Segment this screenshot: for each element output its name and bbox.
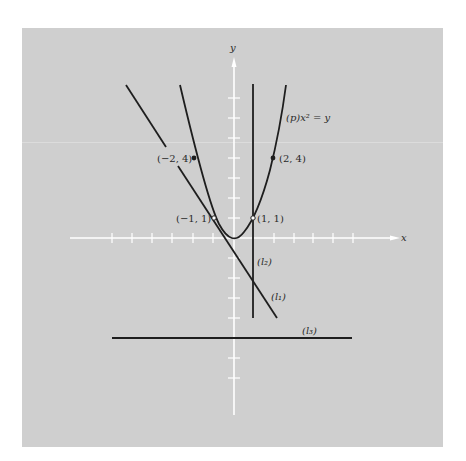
point-neg2-4-marker-icon: [192, 156, 197, 161]
x-axis-label: x: [401, 232, 407, 243]
label-l1: (l₁): [271, 291, 286, 302]
y-axis-arrow-icon: [232, 57, 237, 67]
y-axis-label: y: [229, 42, 236, 53]
point-neg1-1-marker-icon: [212, 216, 216, 220]
point-2-4-marker-icon: [271, 156, 276, 161]
x-axis-arrow-icon: [390, 236, 400, 241]
label-point-neg2-4: (−2, 4): [157, 153, 192, 164]
label-l3: (l₃): [302, 325, 317, 336]
label-point-1-1: (1, 1): [257, 213, 284, 224]
label-point-neg1-1: (−1, 1): [176, 213, 211, 224]
label-l2: (l₂): [257, 256, 272, 267]
point-1-1-marker-icon: [251, 216, 255, 220]
label-curve-p: (p)x² = y: [286, 112, 331, 123]
line-l1: [126, 85, 277, 318]
graph: y x (−2, 4) (2, 4) (−1, 1) (1, 1) (p)x² …: [0, 0, 466, 461]
label-point-2-4: (2, 4): [279, 153, 306, 164]
